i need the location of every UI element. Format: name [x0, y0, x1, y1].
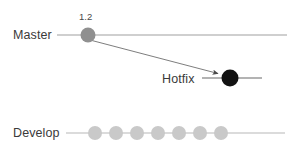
branch-label-develop: Develop: [13, 127, 60, 140]
git-branch-diagram: 1.2 Master Hotfix Develop: [0, 0, 302, 149]
branch-label-master: Master: [13, 29, 52, 42]
commit-node-develop[interactable]: [193, 126, 207, 140]
commit-node-develop[interactable]: [214, 126, 228, 140]
version-tag-label: 1.2: [79, 12, 92, 22]
connector-arrow-master-to-hotfix: [90, 40, 218, 74]
branch-label-hotfix: Hotfix: [162, 73, 195, 86]
commit-node-develop[interactable]: [88, 126, 102, 140]
commit-node-develop[interactable]: [172, 126, 186, 140]
commit-node-develop[interactable]: [130, 126, 144, 140]
commit-node-develop[interactable]: [151, 126, 165, 140]
commit-node-master[interactable]: [81, 28, 96, 43]
commit-node-hotfix[interactable]: [222, 70, 239, 87]
commit-node-develop[interactable]: [109, 126, 123, 140]
